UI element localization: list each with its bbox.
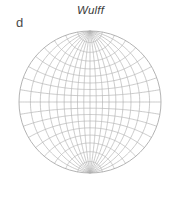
wulff-net-figure: d Wulff <box>0 0 181 197</box>
wulff-net-diagram <box>0 0 181 197</box>
